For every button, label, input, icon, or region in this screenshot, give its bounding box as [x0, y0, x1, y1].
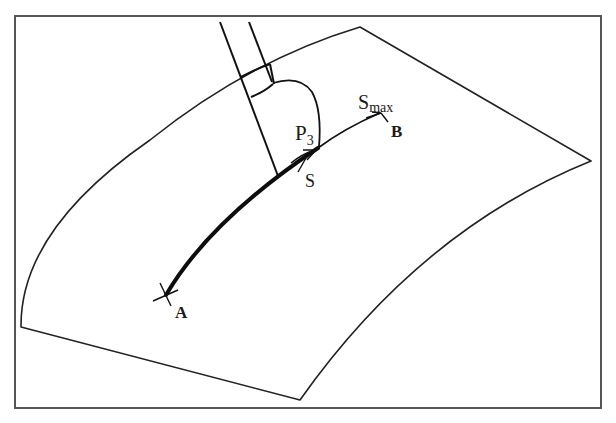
- direction-arrow-icon: [291, 150, 316, 172]
- point-b-label: B: [391, 122, 402, 141]
- smax-subscript: max: [369, 100, 393, 115]
- point-a-label: A: [175, 303, 188, 322]
- tool-point-main: P: [295, 121, 307, 145]
- smax-main: S: [358, 91, 369, 113]
- tool-point-subscript: 3: [307, 133, 314, 148]
- surface-patch: [21, 27, 591, 400]
- remaining-path: [318, 113, 380, 148]
- diagram-canvas: A B P3 S Smax: [0, 0, 616, 423]
- path-param-max-label: Smax: [358, 91, 393, 115]
- tool-point-label: P3: [295, 121, 314, 148]
- tool-shank: [220, 22, 278, 176]
- path-param-label: S: [305, 171, 315, 191]
- traversed-path: [166, 148, 318, 295]
